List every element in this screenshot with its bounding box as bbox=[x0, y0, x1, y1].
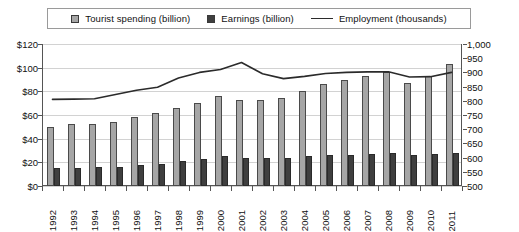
y-axis-right-tick-label: 800 bbox=[467, 95, 483, 106]
x-axis-tick-label: 2001 bbox=[237, 210, 247, 231]
employment-polyline bbox=[53, 62, 452, 99]
legend-swatch-line-icon bbox=[311, 18, 333, 19]
legend-label-tourist-spending: Tourist spending (billion) bbox=[85, 13, 190, 24]
y-axis-right-tick bbox=[463, 87, 467, 88]
y-axis-left-tick-label: $40 bbox=[22, 133, 38, 144]
x-axis-tick-label: 1998 bbox=[174, 210, 184, 231]
y-axis-left-tick-label: $20 bbox=[22, 157, 38, 168]
x-axis-tick-label: 1992 bbox=[48, 210, 58, 231]
y-axis-right-tick bbox=[463, 115, 467, 116]
x-axis-tick-label: 2007 bbox=[363, 210, 373, 231]
legend-swatch-square-icon bbox=[207, 15, 215, 23]
y-axis-right-tick-label: 700 bbox=[467, 124, 483, 135]
y-axis-right-labels: 1,000950900850800750700650600550500 bbox=[467, 44, 517, 186]
x-axis-tick-label: 2008 bbox=[384, 210, 394, 231]
legend-label-earnings: Earnings (billion) bbox=[221, 13, 294, 24]
y-axis-left-labels: $120$100$80$60$40$20$0 bbox=[0, 44, 38, 186]
y-axis-right-tick bbox=[463, 129, 467, 130]
legend-label-employment: Employment (thousands) bbox=[339, 13, 447, 24]
x-axis-tick-label: 1993 bbox=[69, 210, 79, 231]
y-axis-right-tick-label: 900 bbox=[467, 67, 483, 78]
y-axis-right-tick-label: 650 bbox=[467, 138, 483, 149]
y-axis-right-tick-label: 1,000 bbox=[467, 39, 491, 50]
legend-item-tourist-spending: Tourist spending (billion) bbox=[71, 13, 190, 24]
y-axis-right-tick bbox=[463, 101, 467, 102]
legend-item-earnings: Earnings (billion) bbox=[207, 13, 294, 24]
x-axis-tick-label: 2002 bbox=[258, 210, 268, 231]
y-axis-right-tick-label: 600 bbox=[467, 152, 483, 163]
y-axis-right-tick bbox=[463, 172, 467, 173]
x-axis-tick-label: 2003 bbox=[279, 210, 289, 231]
y-axis-right-tick-label: 500 bbox=[467, 181, 483, 192]
y-axis-right-tick bbox=[463, 58, 467, 59]
y-axis-right-tick-label: 750 bbox=[467, 110, 483, 121]
employment-line-series bbox=[42, 44, 462, 186]
y-axis-right-tick bbox=[463, 44, 467, 45]
x-axis-tick bbox=[462, 186, 463, 191]
y-axis-left-tick-label: $100 bbox=[17, 62, 38, 73]
y-axis-right-tick bbox=[463, 186, 467, 187]
x-axis-tick-label: 2004 bbox=[300, 210, 310, 231]
x-axis-tick-label: 1997 bbox=[153, 210, 163, 231]
x-axis-tick-label: 2000 bbox=[216, 210, 226, 231]
x-axis-tick-label: 2010 bbox=[426, 210, 436, 231]
chart-legend: Tourist spending (billion) Earnings (bil… bbox=[47, 8, 471, 29]
y-axis-right-tick-label: 550 bbox=[467, 166, 483, 177]
y-axis-right-tick bbox=[463, 143, 467, 144]
x-axis-tick-label: 1994 bbox=[90, 210, 100, 231]
y-axis-left-tick-label: $60 bbox=[22, 110, 38, 121]
x-axis-labels: 1992199319941995199619971998199920002001… bbox=[42, 191, 462, 231]
x-axis-tick-label: 2006 bbox=[342, 210, 352, 231]
plot-area bbox=[42, 44, 462, 186]
x-axis-tick-label: 2011 bbox=[447, 211, 457, 231]
legend-item-employment: Employment (thousands) bbox=[311, 13, 447, 24]
x-axis-tick-label: 1999 bbox=[195, 210, 205, 231]
chart-container: Tourist spending (billion) Earnings (bil… bbox=[0, 0, 519, 232]
y-axis-right-tick-label: 850 bbox=[467, 81, 483, 92]
y-axis-left-tick-label: $0 bbox=[27, 181, 38, 192]
x-axis-tick-label: 2009 bbox=[405, 210, 415, 231]
y-axis-left-tick-label: $120 bbox=[17, 39, 38, 50]
x-axis-tick-label: 1996 bbox=[132, 210, 142, 231]
y-axis-right-tick bbox=[463, 72, 467, 73]
y-axis-left-tick-label: $80 bbox=[22, 86, 38, 97]
y-axis-right-tick bbox=[463, 158, 467, 159]
x-axis-tick-label: 2005 bbox=[321, 210, 331, 231]
x-axis-tick-label: 1995 bbox=[111, 210, 121, 231]
legend-swatch-square-icon bbox=[71, 15, 79, 23]
y-axis-right-tick-label: 950 bbox=[467, 53, 483, 64]
